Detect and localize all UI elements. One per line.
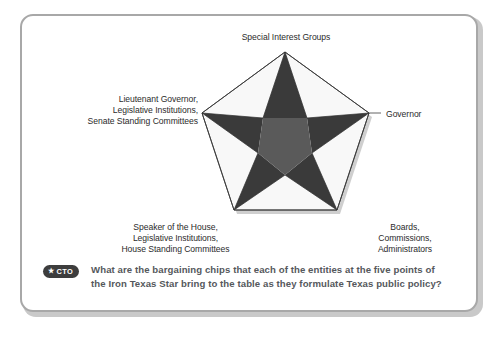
figure-root: Special Interest Groups Lieutenant Gover… <box>0 0 504 339</box>
label-lieutenant-governor: Lieutenant Governor, Legislative Institu… <box>38 94 198 128</box>
label-speaker-of-the-house: Speaker of the House, Legislative Instit… <box>93 222 258 256</box>
cto-badge-label: CTO <box>56 267 73 276</box>
caption-text: What are the bargaining chips that each … <box>91 263 443 290</box>
label-governor: Governor <box>386 109 486 120</box>
caption-row: ★ CTO What are the bargaining chips that… <box>43 263 443 290</box>
star-icon: ★ <box>48 268 54 275</box>
cto-badge: ★ CTO <box>43 265 79 278</box>
label-special-interest-groups: Special Interest Groups <box>196 32 376 43</box>
label-boards-commissions: Boards, Commissions, Administrators <box>355 222 455 256</box>
